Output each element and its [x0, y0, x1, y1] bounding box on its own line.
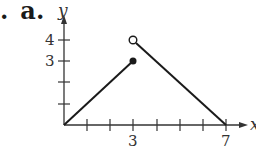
closed-dot-marker [130, 58, 137, 65]
line-segment-1 [64, 61, 133, 125]
open-dot-marker [129, 36, 137, 44]
y-tick-label-3: 3 [45, 52, 55, 70]
x-tick-label-3: 3 [128, 132, 138, 150]
x-tick-label-7: 7 [221, 132, 231, 150]
line-segment-2 [136, 43, 226, 125]
x-axis-arrow-icon [239, 122, 248, 128]
y-tick-label-4: 4 [45, 31, 55, 49]
x-axis-label: x [250, 114, 256, 134]
y-axis-label: y [57, 0, 68, 20]
piecewise-graph: y x 3 4 3 7 [0, 0, 256, 157]
